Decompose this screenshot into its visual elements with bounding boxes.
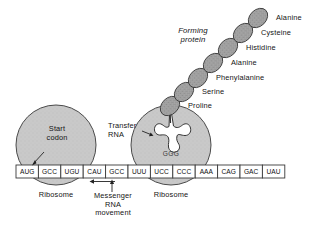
amino-acid-label: Proline (188, 102, 212, 111)
transfer-rna-line2: RNA (108, 130, 124, 139)
transfer-rna-label: Transfer RNA (108, 122, 146, 139)
codon-label: AAA (195, 168, 217, 175)
forming-protein-line1: Forming (178, 26, 208, 35)
codon-label: CAG (218, 168, 240, 175)
codon-label: GAC (240, 168, 262, 175)
codon-label: GCC (106, 168, 128, 175)
translation-diagram: Forming protein Start codon Transfer RNA… (0, 0, 312, 227)
start-codon-label: Start codon (34, 125, 80, 142)
codon-label: UAU (262, 168, 284, 175)
codon-label: UGU (61, 168, 83, 175)
amino-acid-label: Alanine (276, 14, 302, 23)
mrna-movement-arrowhead (90, 179, 95, 183)
codon-label: UUU (128, 168, 150, 175)
codon-label: CAU (83, 168, 105, 175)
amino-acid-label: Histidine (246, 44, 276, 53)
start-codon-line2: codon (47, 133, 68, 142)
amino-acid-label: Phenylalanine (216, 74, 264, 83)
amino-acid-label: Serine (202, 88, 224, 97)
codon-label: UCC (150, 168, 172, 175)
amino-acid-label: Alanine (231, 59, 257, 68)
anticodon-label: GGG (160, 150, 182, 157)
codon-label: AUG (16, 168, 38, 175)
codon-label: CCC (173, 168, 195, 175)
forming-protein-label: Forming protein (166, 26, 220, 45)
mrna-movement-line3: movement (95, 208, 131, 217)
codon-label: GCC (38, 168, 60, 175)
amino-acid-label: Cysteine (261, 29, 291, 38)
forming-protein-line2: protein (181, 35, 206, 44)
mrna-movement-label: Messenger RNA movement (82, 192, 144, 218)
ribosome-right-label: Ribosome (141, 191, 201, 200)
ribosome-left-label: Ribosome (26, 191, 86, 200)
